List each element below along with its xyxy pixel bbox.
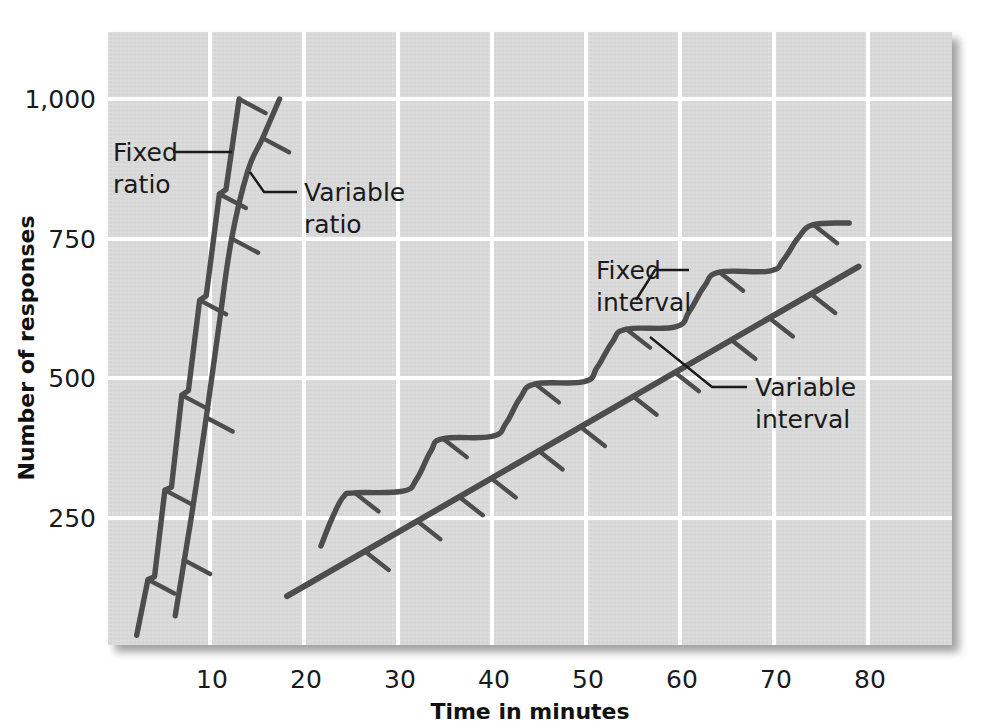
annotation-fixed-ratio-line2: ratio	[113, 170, 171, 199]
x-tick-label-10: 10	[196, 665, 228, 694]
y-tick-label-250: 250	[48, 504, 96, 533]
x-tick-label-80: 80	[854, 665, 886, 694]
scallop-response-chart: 1,000 750 500 250 10 20 30 40 50 60 70 8…	[0, 0, 992, 728]
x-tick-label-30: 30	[384, 665, 416, 694]
annotation-variable-ratio-line1: Variable	[304, 178, 405, 207]
annotation-fixed-interval-line1: Fixed	[596, 256, 661, 285]
y-tick-label-500: 500	[48, 364, 96, 393]
y-axis-title: Number of responses	[14, 215, 39, 480]
annotation-variable-interval-line1: Variable	[755, 373, 856, 402]
x-tick-label-60: 60	[666, 665, 698, 694]
annotation-fixed-interval-line2: interval	[596, 288, 691, 317]
x-tick-label-40: 40	[478, 665, 510, 694]
chart-figure: 1,000 750 500 250 10 20 30 40 50 60 70 8…	[0, 0, 992, 728]
plot-area	[108, 32, 952, 645]
x-tick-label-50: 50	[572, 665, 604, 694]
annotation-fixed-ratio-line1: Fixed	[113, 138, 178, 167]
y-tick-label-1000: 1,000	[24, 85, 96, 114]
x-tick-label-20: 20	[290, 665, 322, 694]
annotation-variable-interval-line2: interval	[755, 405, 850, 434]
x-tick-label-70: 70	[760, 665, 792, 694]
annotation-variable-ratio-line2: ratio	[304, 210, 362, 239]
x-axis-title: Time in minutes	[430, 699, 629, 724]
y-tick-label-750: 750	[48, 225, 96, 254]
